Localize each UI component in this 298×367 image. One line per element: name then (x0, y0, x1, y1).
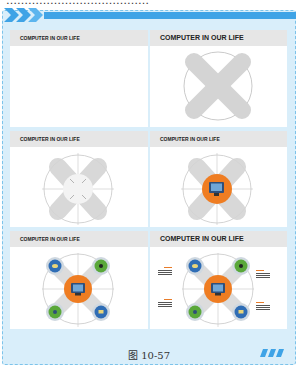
x-diagram (150, 46, 287, 127)
slide-title: COMPUTER IN OUR LIFE (10, 30, 148, 46)
text-label-right-bottom (256, 302, 270, 310)
slide-6: COMPUTER IN OUR LIFE (150, 231, 287, 329)
green-icon-top-right (92, 257, 110, 275)
slide-4: COMPUTER IN OUR LIFE (150, 131, 287, 227)
slide-2: COMPUTER IN OUR LIFE (150, 30, 287, 127)
decorative-slashes-icon (260, 349, 286, 357)
slide-body-empty (10, 46, 148, 127)
blue-icon-top-left (46, 257, 64, 275)
text-label-left-bottom (158, 299, 172, 307)
x-diagram-crosshair (10, 147, 148, 227)
cut-off-top-text: ………………………………… (0, 0, 298, 4)
slide-5: COMPUTER IN OUR LIFE (10, 231, 148, 329)
figure-caption: 图 10-57 (0, 347, 298, 362)
blue-icon-bottom-right (92, 303, 110, 321)
x-diagram-final (150, 247, 287, 329)
slide-3: COMPUTER IN OUR LIFE (10, 131, 148, 227)
slide-title: COMPUTER IN OUR LIFE (150, 231, 287, 247)
slide-title: COMPUTER IN OUR LIFE (10, 131, 148, 147)
slide-title: COMPUTER IN OUR LIFE (150, 131, 287, 147)
slide-title: COMPUTER IN OUR LIFE (10, 231, 148, 247)
slide-1: COMPUTER IN OUR LIFE (10, 30, 148, 127)
x-diagram-center-icon (150, 147, 287, 227)
x-diagram-with-icons (10, 247, 148, 329)
text-label-left-top (158, 267, 172, 275)
slide-title: COMPUTER IN OUR LIFE (150, 30, 287, 46)
text-label-right-top (256, 270, 270, 278)
header-bar (44, 12, 296, 19)
green-icon-bottom-left (46, 303, 64, 321)
